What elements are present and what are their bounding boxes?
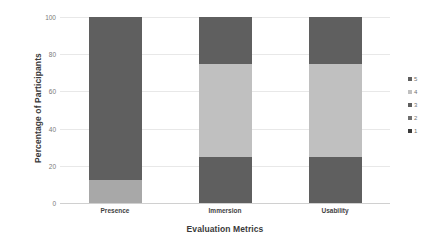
legend-swatch-icon-3 — [408, 103, 412, 107]
legend-swatch-icon-2 — [408, 116, 412, 120]
x-tick-label-usability: Usability — [321, 207, 348, 214]
x-tick-label-immersion: Immersion — [209, 207, 242, 214]
y-axis-tick-labels: 020406080100 — [28, 17, 56, 203]
legend-label-5: 5 — [414, 76, 417, 82]
bar-segment-immersion-series-4[interactable] — [199, 64, 252, 157]
bar-stack — [89, 17, 142, 203]
bar-segment-usability-series-5[interactable] — [309, 17, 362, 64]
bar-stack — [309, 17, 362, 203]
bar-segment-immersion-series-5[interactable] — [199, 17, 252, 64]
bar-segment-immersion-series-3[interactable] — [199, 157, 252, 204]
gridline-0 — [60, 203, 390, 204]
legend-item-1[interactable]: 1 — [408, 124, 438, 137]
chart-legend: 54321 — [408, 72, 438, 137]
y-tick-label-60: 60 — [28, 88, 56, 95]
bar-segment-presence-series-5[interactable] — [89, 17, 142, 180]
plot-area — [60, 17, 390, 203]
legend-swatch-icon-1 — [408, 129, 412, 133]
y-tick-label-100: 100 — [28, 14, 56, 21]
y-tick-label-20: 20 — [28, 162, 56, 169]
bar-segment-presence-series-4[interactable] — [89, 180, 142, 203]
x-axis-tick-labels: PresenceImmersionUsability — [60, 207, 390, 221]
stacked-bar-chart: Percentage of Participants 020406080100 … — [0, 0, 441, 249]
legend-swatch-icon-5 — [408, 77, 412, 81]
bar-group-usability[interactable] — [309, 17, 362, 203]
bar-stack — [199, 17, 252, 203]
legend-item-4[interactable]: 4 — [408, 85, 438, 98]
x-axis-title: Evaluation Metrics — [60, 224, 390, 234]
bars-layer — [60, 17, 390, 203]
legend-label-4: 4 — [414, 89, 417, 95]
legend-label-2: 2 — [414, 115, 417, 121]
y-tick-label-0: 0 — [28, 200, 56, 207]
legend-label-1: 1 — [414, 128, 417, 134]
legend-item-2[interactable]: 2 — [408, 111, 438, 124]
y-tick-label-40: 40 — [28, 125, 56, 132]
bar-segment-usability-series-4[interactable] — [309, 64, 362, 157]
legend-item-3[interactable]: 3 — [408, 98, 438, 111]
legend-item-5[interactable]: 5 — [408, 72, 438, 85]
bar-group-presence[interactable] — [89, 17, 142, 203]
legend-swatch-icon-4 — [408, 90, 412, 94]
x-tick-label-presence: Presence — [101, 207, 130, 214]
y-tick-label-80: 80 — [28, 51, 56, 58]
bar-segment-usability-series-3[interactable] — [309, 157, 362, 204]
bar-group-immersion[interactable] — [199, 17, 252, 203]
legend-label-3: 3 — [414, 102, 417, 108]
